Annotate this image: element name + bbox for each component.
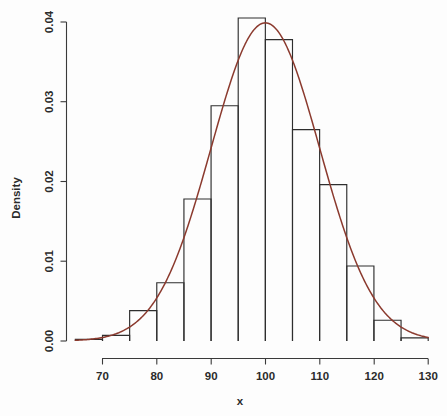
x-tick-label-110: 110: [311, 370, 330, 382]
y-tick-label-003: 0.03: [43, 91, 55, 113]
y-tick-label-002: 0.02: [43, 170, 55, 192]
y-tick-label-000: 0.00: [43, 330, 55, 352]
x-tick-label-100: 100: [256, 370, 275, 382]
y-axis-title: Density: [10, 177, 22, 219]
chart-background: [0, 0, 447, 416]
x-axis-title: x: [237, 395, 244, 407]
y-tick-label-001: 0.01: [43, 249, 55, 272]
y-tick-label-004: 0.04: [43, 10, 55, 33]
histogram-plot-panel: 0.04 0.03 0.02 0.01 0.00 Density 70 80 9…: [0, 0, 447, 416]
x-tick-label-80: 80: [150, 370, 163, 382]
density-histogram-chart: 0.04 0.03 0.02 0.01 0.00 Density 70 80 9…: [0, 0, 447, 416]
x-tick-label-90: 90: [205, 370, 218, 382]
x-tick-label-130: 130: [419, 370, 438, 382]
x-tick-label-120: 120: [365, 370, 384, 382]
x-tick-label-70: 70: [96, 370, 109, 382]
